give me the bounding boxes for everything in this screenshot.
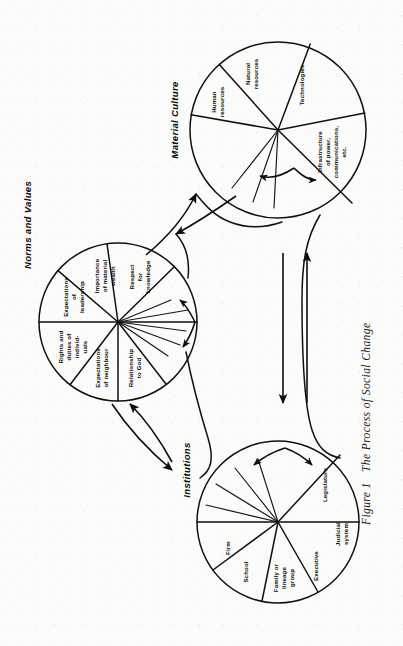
caption-text: The Process of Social Change — [360, 323, 373, 472]
segment-label-expectations-leadership: Expectations — [62, 277, 69, 317]
segment-label-school: School — [242, 561, 249, 582]
segment-label-relationship-god: Relationship — [127, 349, 134, 387]
segment-label-judicial-system-2: system — [342, 523, 349, 545]
figure-caption: Figure 1 The Process of Social Change — [360, 323, 373, 526]
self-loop-material-right — [294, 168, 316, 180]
segment-label-technologies: Technologies — [298, 64, 305, 105]
circle-title-material-culture: Material Culture — [169, 81, 180, 159]
segment-label-natural-resources: Natural — [244, 63, 251, 85]
segment-label-rights-duties-4: uals — [81, 340, 88, 353]
segment-label-rights-duties-3: individ- — [73, 336, 80, 359]
segment-label-infrastructure: Infrastructure — [316, 131, 323, 173]
circle-title-institutions: Institutions — [181, 442, 192, 497]
segment-label-importance-wealth-2: of material — [101, 260, 108, 293]
segment-label-expectations-leadership-2: of — [70, 293, 77, 300]
circle-institutions[interactable]: Firm School Family or lineage group Exec… — [181, 441, 359, 603]
connector-norms-to-institutions — [112, 404, 172, 470]
segment-label-infrastructure-4: etc. — [340, 146, 347, 157]
segment-label-respect-knowledge: Respect — [128, 265, 135, 290]
segment-label-infrastructure-2: of power, — [324, 138, 331, 166]
norms-and-values-labels: Expectations of leadership Importance of… — [57, 258, 151, 387]
segment-label-rights-duties-2: duties of — [65, 333, 72, 361]
segment-label-legislature: Legislature — [321, 467, 328, 502]
segment-label-infrastructure-3: communications, — [332, 126, 339, 179]
segment-label-human-resources: Human — [210, 91, 217, 113]
social-change-diagram: Human resources Natural resources Techno… — [0, 0, 403, 646]
figure-root: Human resources Natural resources Techno… — [0, 0, 403, 646]
segment-label-family-lineage: Family or — [272, 563, 279, 592]
segment-label-expectations-neighbour-2: of neighbour — [102, 348, 109, 388]
segment-label-rights-duties: Rights and — [57, 330, 64, 363]
segment-label-expectations-leadership-3: leadership — [78, 281, 85, 313]
circle-material-culture[interactable]: Human resources Natural resources Techno… — [169, 42, 366, 218]
segment-label-relationship-god-2: to God — [135, 358, 142, 379]
segment-label-respect-knowledge-2: for — [136, 272, 143, 281]
connector-institutions-to-norms — [130, 404, 172, 462]
self-loop-material-left — [260, 168, 294, 177]
segment-label-family-lineage-2: lineage — [280, 567, 287, 590]
segment-label-natural-resources-2: resources — [252, 58, 259, 89]
self-loop-institutions-right — [285, 448, 312, 465]
segment-label-importance-wealth-3: wealth — [109, 266, 116, 287]
connector-material-to-norms — [176, 196, 236, 234]
segment-label-respect-knowledge-3: knowledge — [144, 260, 151, 293]
segment-label-judicial-system: Judicial — [334, 522, 341, 546]
self-loop-norms-lower — [183, 322, 195, 347]
segment-label-firm: Firm — [224, 541, 231, 555]
circle-title-norms-and-values: Norms and Values — [22, 181, 33, 269]
neck-material-norms-upper — [196, 194, 282, 227]
segment-label-executive: Executive — [312, 551, 319, 581]
circle-norms-and-values[interactable]: Expectations of leadership Importance of… — [22, 181, 197, 401]
segment-label-expectations-neighbour: Expectations — [94, 348, 101, 388]
connector-norms-to-material — [146, 194, 196, 255]
caption-number: Figure 1 — [360, 482, 373, 526]
segment-label-family-lineage-3: group — [288, 569, 295, 587]
institutions-labels: Firm School Family or lineage group Exec… — [224, 467, 349, 592]
segment-label-human-resources-2: resources — [218, 86, 225, 117]
svg-text:Figure 1 The Process o: Figure 1 The Process of Social Change — [360, 323, 373, 526]
segment-label-importance-wealth: Importance — [93, 258, 100, 293]
